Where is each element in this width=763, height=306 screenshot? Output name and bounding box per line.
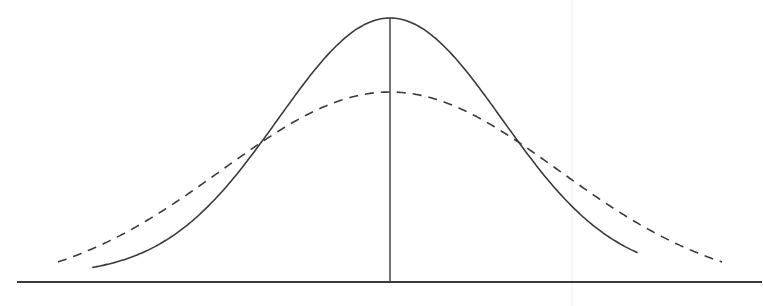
distribution-diagram bbox=[0, 0, 763, 306]
solid-normal-curve bbox=[93, 18, 637, 267]
diagram-canvas bbox=[0, 0, 763, 306]
